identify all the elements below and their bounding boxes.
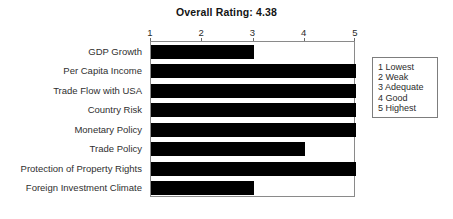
bar	[151, 181, 254, 195]
y-axis-category-label: Trade Policy	[90, 143, 142, 154]
y-axis-category-label: Monetary Policy	[74, 123, 142, 134]
x-axis-ticks: 12345	[150, 27, 355, 40]
legend-entry: 1 Lowest	[378, 62, 434, 72]
y-axis-category-label: Protection of Property Rights	[21, 162, 142, 173]
legend-entry: 3 Adequate	[378, 82, 434, 92]
y-axis-category-label: Country Risk	[88, 104, 142, 115]
y-axis-category-label: Trade Flow with USA	[53, 84, 142, 95]
x-axis-tick-label: 1	[147, 27, 152, 38]
bar	[151, 84, 356, 98]
bar	[151, 162, 356, 176]
chart-title: Overall Rating: 4.38	[0, 6, 453, 18]
bar	[151, 64, 356, 78]
x-axis-tick-label: 5	[352, 27, 357, 38]
y-axis-category-label: Per Capita Income	[63, 65, 142, 76]
x-axis-tick-label: 3	[250, 27, 255, 38]
y-axis-category-label: GDP Growth	[88, 45, 142, 56]
legend-entry: 5 Highest	[378, 103, 434, 113]
rating-scale-legend: 1 Lowest2 Weak3 Adequate4 Good5 Highest	[372, 57, 438, 118]
x-axis-tick-label: 4	[301, 27, 306, 38]
x-axis-tick-label: 2	[199, 27, 204, 38]
bar	[151, 123, 356, 137]
bar	[151, 142, 305, 156]
y-axis-category-labels: GDP GrowthPer Capita IncomeTrade Flow wi…	[0, 41, 146, 197]
bar-chart: Overall Rating: 4.38 12345 GDP GrowthPer…	[0, 0, 453, 219]
bar	[151, 103, 356, 117]
legend-entry: 4 Good	[378, 93, 434, 103]
legend-entry: 2 Weak	[378, 72, 434, 82]
y-axis-category-label: Foreign Investment Climate	[26, 182, 142, 193]
bars-layer	[151, 42, 354, 196]
plot-area	[150, 41, 355, 197]
bar	[151, 45, 254, 59]
